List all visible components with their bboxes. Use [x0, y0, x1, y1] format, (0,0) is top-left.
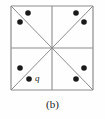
charge-top-left-outer-dot [25, 10, 31, 16]
charge-q-label: q [35, 73, 40, 83]
charge-bottom-left-inner-dot [26, 76, 32, 82]
charge-bottom-left-outer-dot [17, 65, 23, 71]
charge-top-right-outer-dot [81, 19, 87, 25]
figure-caption: (b) [0, 98, 105, 110]
charge-bottom-right-outer-dot [81, 65, 87, 71]
figure-container: q (b) [0, 0, 105, 119]
charge-bottom-right-inner-dot [73, 76, 79, 82]
charge-top-left-inner-dot [17, 19, 23, 25]
charge-top-right-inner-dot [73, 10, 79, 16]
